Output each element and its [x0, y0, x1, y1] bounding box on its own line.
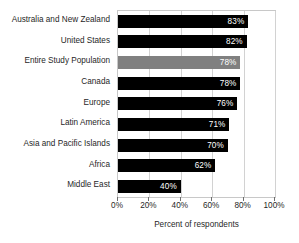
bar: 78%: [118, 77, 240, 90]
bar: 62%: [118, 159, 215, 172]
bar-value-label: 78%: [220, 79, 241, 88]
bar-row: 62%: [118, 156, 275, 177]
bar: 71%: [118, 118, 229, 131]
plot-area: 83%82%78%78%76%71%70%62%40%: [117, 10, 276, 198]
bar: 76%: [118, 97, 237, 110]
x-tick-label: 100%: [264, 201, 285, 210]
bar-row: 83%: [118, 11, 275, 32]
category-label: Entire Study Population: [0, 51, 114, 72]
category-label: Africa: [0, 155, 114, 176]
bar-value-label: 71%: [209, 120, 230, 129]
bar: 82%: [118, 35, 247, 48]
bar-value-label: 76%: [217, 99, 238, 108]
category-label: United States: [0, 31, 114, 52]
category-label: Latin America: [0, 113, 114, 134]
category-label: Asia and Pacific Islands: [0, 134, 114, 155]
bar-row: 76%: [118, 94, 275, 115]
bar-row: 82%: [118, 32, 275, 53]
category-label: Australia and New Zealand: [0, 10, 114, 31]
category-label: Europe: [0, 93, 114, 114]
x-tick-label: 80%: [234, 201, 250, 210]
bar-series: 83%82%78%78%76%71%70%62%40%: [118, 11, 275, 197]
bar-value-label: 83%: [228, 17, 249, 26]
bar-highlighted: 78%: [118, 56, 240, 69]
x-axis-tick-labels: 0%20%40%60%80%100%: [117, 201, 276, 213]
bar-chart-figure: Australia and New ZealandUnited StatesEn…: [0, 0, 299, 243]
x-tick-label: 60%: [203, 201, 219, 210]
bar-value-label: 62%: [195, 161, 216, 170]
bar: 40%: [118, 180, 181, 193]
bar-row: 78%: [118, 52, 275, 73]
x-tick-label: 0%: [111, 201, 123, 210]
category-label: Canada: [0, 72, 114, 93]
category-axis: Australia and New ZealandUnited StatesEn…: [0, 10, 114, 196]
category-label: Middle East: [0, 175, 114, 196]
bar-row: 40%: [118, 176, 275, 197]
bar: 70%: [118, 139, 228, 152]
x-axis-title: Percent of respondents: [117, 220, 276, 229]
bar-value-label: 78%: [220, 58, 241, 67]
bar-value-label: 70%: [207, 141, 228, 150]
bar-row: 78%: [118, 73, 275, 94]
gridline: [275, 11, 276, 197]
bar: 83%: [118, 15, 248, 28]
bar-row: 70%: [118, 135, 275, 156]
x-tick-label: 40%: [172, 201, 188, 210]
bar-value-label: 82%: [226, 37, 247, 46]
bar-value-label: 40%: [160, 182, 181, 191]
x-tick-label: 20%: [140, 201, 156, 210]
bar-row: 71%: [118, 114, 275, 135]
